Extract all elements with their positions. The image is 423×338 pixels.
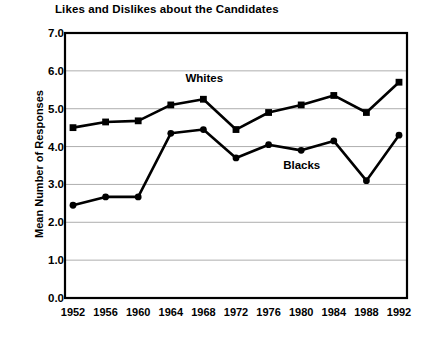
- x-tick-label: 1968: [191, 306, 215, 318]
- chart-title: Likes and Dislikes about the Candidates: [55, 3, 279, 15]
- x-tick-label: 1988: [354, 306, 378, 318]
- x-tick-label: 1976: [256, 306, 280, 318]
- y-tick-label: 1.0: [30, 254, 64, 266]
- y-tick-label: 2.0: [30, 216, 64, 228]
- plot-frame: [65, 33, 407, 298]
- x-tick-label: 1960: [126, 306, 150, 318]
- x-tick-label: 1992: [387, 306, 411, 318]
- x-tick-label: 1964: [159, 306, 183, 318]
- x-tick-label: 1956: [93, 306, 117, 318]
- x-tick-label: 1984: [322, 306, 346, 318]
- y-tick-label: 3.0: [30, 178, 64, 190]
- x-tick-label: 1952: [61, 306, 85, 318]
- y-tick-label: 5.0: [30, 103, 64, 115]
- y-tick-label: 7.0: [30, 27, 64, 39]
- series-label-blacks: Blacks: [283, 159, 320, 171]
- series-label-whites: Whites: [185, 72, 223, 84]
- y-tick-label: 4.0: [30, 141, 64, 153]
- x-tick-label: 1972: [224, 306, 248, 318]
- y-tick-label: 0.0: [30, 292, 64, 304]
- gridlines: [65, 71, 407, 260]
- data-series-layer: [70, 79, 403, 209]
- x-tick-label: 1980: [289, 306, 313, 318]
- y-axis-tick-labels: 0.01.02.03.04.05.06.07.0: [0, 0, 64, 338]
- y-tick-label: 6.0: [30, 65, 64, 77]
- chart-figure: Likes and Dislikes about the Candidates …: [0, 0, 423, 338]
